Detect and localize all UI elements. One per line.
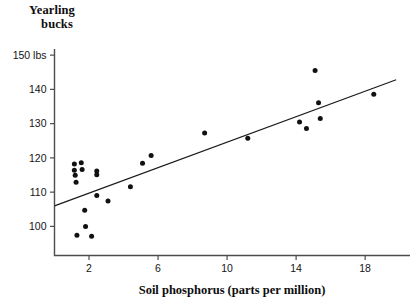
y-tick-label: 110	[30, 186, 47, 198]
x-tick-label: 6	[155, 262, 161, 274]
y-tick-label: 150 lbs	[13, 49, 47, 61]
x-tick-label: 2	[86, 262, 92, 274]
axis-spine	[55, 49, 411, 256]
x-tick-label: 18	[359, 262, 371, 274]
data-point	[72, 162, 77, 167]
data-point	[82, 208, 87, 213]
y-tick-label: 140	[29, 83, 47, 95]
data-point	[83, 224, 88, 229]
data-point	[89, 234, 94, 239]
data-point	[79, 160, 84, 165]
scatter-plot-canvas: 100110120130140150 lbs26101418	[0, 0, 412, 307]
data-point	[318, 116, 323, 121]
data-point	[74, 180, 79, 185]
chart-figure: Yearling bucks 100110120130140150 lbs261…	[0, 0, 412, 307]
data-point	[140, 161, 145, 166]
data-point	[371, 92, 376, 97]
y-tick-label: 100	[29, 220, 47, 232]
data-point	[72, 168, 77, 173]
data-point	[73, 173, 78, 178]
y-tick-label: 120	[29, 152, 47, 164]
x-tick-label: 10	[221, 262, 233, 274]
data-point	[94, 193, 99, 198]
x-axis-title: Soil phosphorus (parts per million)	[54, 283, 410, 298]
data-point	[74, 233, 79, 238]
data-point	[94, 172, 99, 177]
data-point	[316, 100, 321, 105]
y-tick-label: 130	[29, 117, 47, 129]
data-point	[149, 153, 154, 158]
data-point	[313, 68, 318, 73]
data-point	[106, 199, 111, 204]
data-point	[304, 126, 309, 131]
data-point	[297, 119, 302, 124]
data-point	[202, 130, 207, 135]
regression-line	[55, 80, 397, 206]
data-point	[245, 136, 250, 141]
data-point	[80, 167, 85, 172]
data-point	[128, 184, 133, 189]
x-tick-label: 14	[290, 262, 302, 274]
